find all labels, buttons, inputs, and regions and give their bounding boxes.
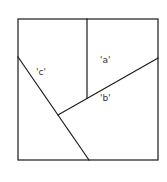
region-diagram: 'a' 'b' 'c' xyxy=(0,0,167,182)
label-b: 'b' xyxy=(100,93,111,103)
outer-square xyxy=(18,19,158,160)
label-a: 'a' xyxy=(100,55,110,65)
diagonal-line-b xyxy=(58,58,158,115)
diagonal-line-c xyxy=(18,57,89,160)
label-c: 'c' xyxy=(36,67,46,77)
